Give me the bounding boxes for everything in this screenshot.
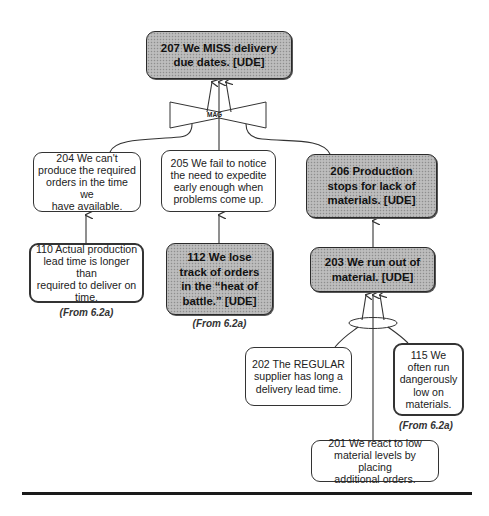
- node-203: 203 We run out of material. [UDE]: [310, 247, 435, 292]
- node-112-text: 112 We lose track of orders in the “heat…: [180, 250, 260, 308]
- node-203-text: 203 We run out of material. [UDE]: [325, 255, 420, 284]
- and-connector: [349, 318, 397, 329]
- node-115: 115 We often run dangerously low on mate…: [393, 343, 464, 416]
- node-207-text: 207 We MISS delivery due dates. [UDE]: [161, 41, 277, 70]
- node-112: 112 We lose track of orders in the “heat…: [166, 243, 273, 315]
- node-206: 206 Production stops for lack of materia…: [306, 154, 437, 218]
- node-204: 204 We can't produce the required orders…: [33, 152, 141, 212]
- mag-label: MAG: [207, 111, 222, 118]
- node-110-source: (From 6.2a): [29, 307, 144, 318]
- node-115-source: (From 6.2a): [383, 420, 469, 431]
- node-110-text: 110 Actual production lead time is longe…: [35, 243, 138, 304]
- node-112-source: (From 6.2a): [166, 318, 273, 329]
- node-206-text: 206 Production stops for lack of materia…: [328, 164, 416, 208]
- node-207: 207 We MISS delivery due dates. [UDE]: [146, 31, 292, 79]
- node-202-text: 202 The REGULAR supplier has long a deli…: [252, 358, 345, 395]
- node-204-text: 204 We can't produce the required orders…: [38, 152, 136, 213]
- node-205: 205 We fail to notice the need to expedi…: [161, 150, 276, 212]
- bottom-rule: [22, 492, 472, 495]
- node-201: 201 We react to low material levels by p…: [311, 440, 439, 482]
- node-202: 202 The REGULAR supplier has long a deli…: [245, 347, 352, 406]
- node-201-text: 201 We react to low material levels by p…: [316, 437, 434, 486]
- node-110: 110 Actual production lead time is longe…: [29, 243, 144, 303]
- node-115-text: 115 We often run dangerously low on mate…: [400, 349, 458, 410]
- node-205-text: 205 We fail to notice the need to expedi…: [170, 157, 266, 206]
